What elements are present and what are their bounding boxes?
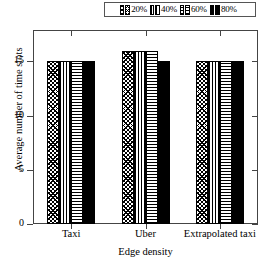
bar — [158, 61, 170, 224]
legend-swatch-60-icon — [180, 5, 190, 15]
bar — [232, 61, 244, 224]
chart-legend: 20% 40% 60% 80% — [104, 2, 256, 17]
legend-swatch-80-icon — [210, 5, 220, 15]
bar — [146, 51, 158, 224]
bar — [220, 61, 232, 224]
legend-label-40: 40% — [161, 5, 177, 14]
y-tick-mark — [27, 116, 33, 117]
x-axis-title: Edge density — [33, 246, 258, 257]
bar — [134, 51, 146, 224]
y-tick-mark — [27, 224, 33, 225]
legend-swatch-40-icon — [150, 5, 160, 15]
legend-entry-80: 80% — [210, 5, 240, 15]
chart-figure: 20% 40% 60% 80% 051015 Average number — [0, 0, 266, 263]
bar — [196, 61, 208, 224]
bar — [122, 51, 134, 224]
legend-label-60: 60% — [191, 5, 207, 14]
y-tick-mark-right — [252, 224, 258, 225]
bar — [71, 61, 83, 224]
bar — [47, 61, 59, 224]
bar — [208, 61, 220, 224]
legend-entry-20: 20% — [120, 5, 150, 15]
y-tick-label: 0 — [4, 218, 24, 228]
legend-swatch-20-icon — [120, 5, 130, 15]
x-category-label: Extrapolated taxi — [170, 228, 266, 239]
y-axis-title: Average number of time slots — [13, 40, 24, 180]
y-tick-mark — [27, 170, 33, 171]
bars-container — [34, 31, 257, 224]
bar — [59, 61, 71, 224]
legend-label-20: 20% — [131, 5, 147, 14]
legend-entry-60: 60% — [180, 5, 210, 15]
legend-label-80: 80% — [221, 5, 237, 14]
legend-entry-40: 40% — [150, 5, 180, 15]
bar — [83, 61, 95, 224]
y-tick-mark — [27, 61, 33, 62]
